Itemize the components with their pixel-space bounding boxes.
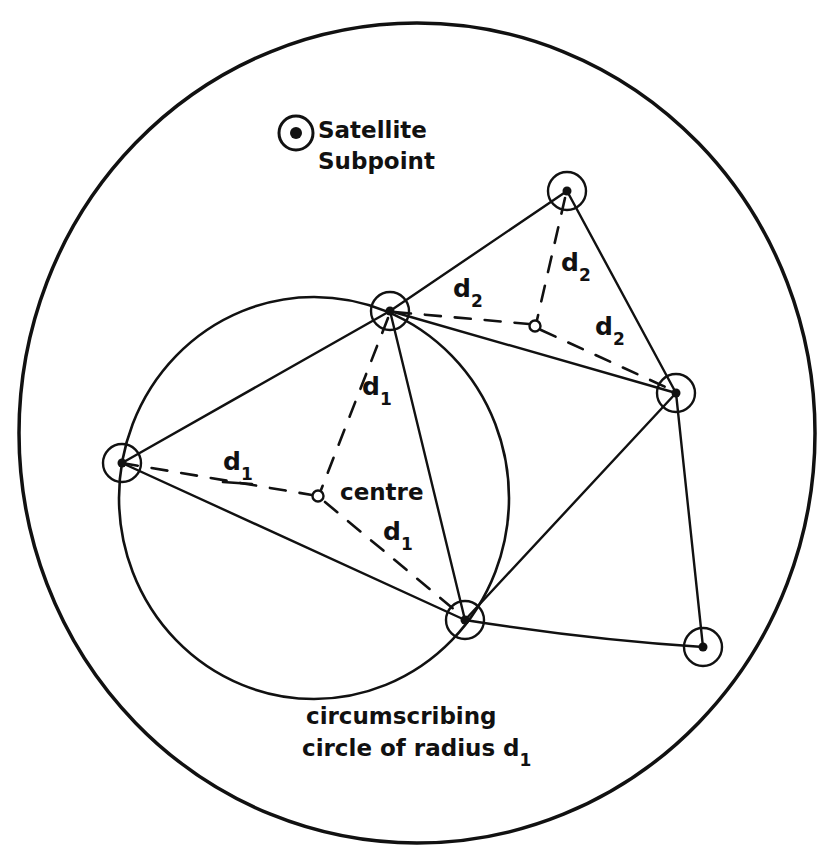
subpoint-a	[103, 444, 141, 482]
label-d2-right: d2	[595, 312, 625, 349]
edge-d-e	[567, 191, 676, 393]
centre-marker-2	[530, 321, 541, 332]
label-d2-upper: d2	[561, 248, 591, 285]
legend: Satellite Subpoint	[279, 116, 435, 174]
radius-labels: d1 d1 d1 d2 d2 d2	[223, 248, 625, 554]
subpoint-e	[657, 374, 695, 412]
edge-c-f	[465, 620, 703, 647]
triangulation-diagram: Satellite Subpoint d1 d1 d1 d2 d2 d2 cen…	[0, 0, 827, 852]
label-d2-left: d2	[453, 274, 483, 311]
subpoint-dot	[672, 389, 681, 398]
label-d1-left: d1	[223, 447, 253, 484]
centre-label: centre	[340, 479, 424, 505]
subpoint-c	[446, 601, 484, 639]
subpoint-dot	[118, 459, 127, 468]
radius-d1-a	[122, 463, 312, 495]
caption-line-2: circle of radius d1	[302, 735, 531, 770]
triangle-edges	[122, 191, 703, 647]
subpoint-dot	[386, 307, 395, 316]
subpoint-b	[371, 292, 409, 330]
legend-line-1: Satellite	[318, 117, 427, 143]
centre-marker-1	[313, 491, 324, 502]
caption-line-1: circumscribing	[306, 703, 497, 729]
label-d1-upper: d1	[362, 372, 392, 409]
subpoint-dot	[461, 616, 470, 625]
legend-dot	[290, 127, 302, 139]
label-d1-lower: d1	[383, 517, 413, 554]
radius-lines	[122, 198, 672, 616]
legend-line-2: Subpoint	[318, 148, 435, 174]
edge-e-f	[676, 393, 703, 647]
subpoint-dot	[563, 187, 572, 196]
caption: circumscribing circle of radius d1	[302, 703, 531, 770]
edge-a-b	[122, 311, 390, 463]
subpoint-dot	[699, 643, 708, 652]
edge-b-e	[390, 311, 676, 393]
subpoint-d	[548, 172, 586, 210]
